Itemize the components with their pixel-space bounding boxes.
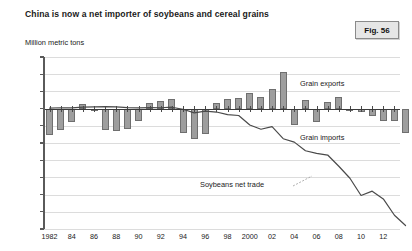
annotation-grain-exports: Grain exports bbox=[300, 79, 344, 88]
figure-number-badge: Fig. 56 bbox=[355, 21, 399, 39]
x-tick-label: 98 bbox=[224, 232, 232, 241]
line-series-soybeans-net-trade bbox=[44, 57, 400, 229]
x-tick-label: 02 bbox=[268, 232, 276, 241]
y-axis-title: Million metric tons bbox=[25, 38, 84, 47]
x-tick-label: 04 bbox=[290, 232, 298, 241]
x-tick-label: 90 bbox=[135, 232, 143, 241]
x-tick-label: 08 bbox=[335, 232, 343, 241]
y-axis-line bbox=[43, 57, 45, 229]
x-tick-label: 86 bbox=[90, 232, 98, 241]
x-tick-label: 2000 bbox=[242, 232, 258, 241]
plot-area bbox=[44, 57, 400, 229]
annotation-soybeans-net-trade: Soybeans net trade bbox=[200, 180, 264, 189]
bar bbox=[402, 109, 409, 133]
figure-number-label: Fig. 56 bbox=[364, 26, 389, 35]
chart-title: China is now a net importer of soybeans … bbox=[25, 9, 269, 19]
x-tick-label: 12 bbox=[379, 232, 387, 241]
x-tick-label: 92 bbox=[157, 232, 165, 241]
x-tick-label: 96 bbox=[201, 232, 209, 241]
zero-line bbox=[44, 109, 400, 110]
annotation-grain-imports: Grain imports bbox=[300, 133, 344, 142]
x-tick-label: 88 bbox=[112, 232, 120, 241]
gridline bbox=[44, 229, 400, 230]
x-tick-label: 1982 bbox=[42, 232, 58, 241]
x-tick-label: 94 bbox=[179, 232, 187, 241]
soybeans-line-path bbox=[50, 107, 406, 226]
x-tick-label: 84 bbox=[68, 232, 76, 241]
x-tick-label: 06 bbox=[313, 232, 321, 241]
y-axis-ticks: 3020100-10-20-30-40-50-60-70 bbox=[0, 57, 44, 229]
x-tick-label: 10 bbox=[357, 232, 365, 241]
